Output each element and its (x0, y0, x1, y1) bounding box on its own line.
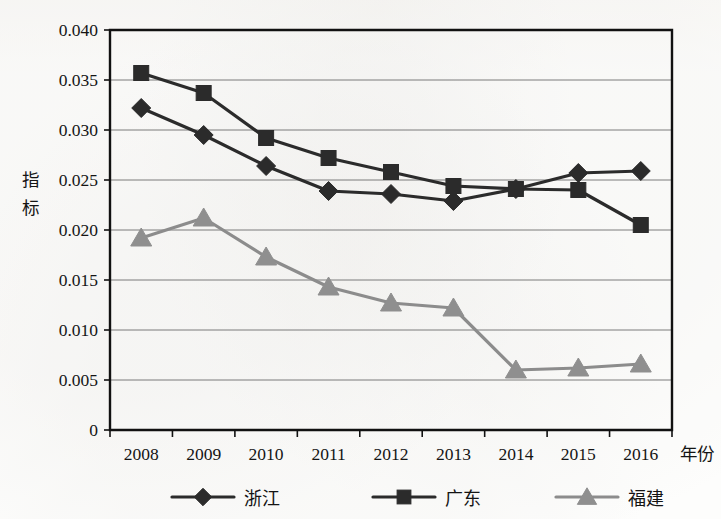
chart-figure: 00.0050.0100.0150.0200.0250.0300.0350.04… (0, 0, 721, 519)
x-tick-label: 2011 (311, 444, 345, 464)
x-axis-title: 年份 (680, 444, 714, 464)
legend-label: 浙江 (244, 489, 280, 509)
legend-item-3: 福建 (556, 488, 664, 509)
axis-titles-group: 指标年份 (22, 170, 714, 464)
data-point-marker (633, 218, 648, 233)
data-point-marker (132, 99, 151, 118)
legend-item-1: 浙江 (172, 488, 280, 509)
y-axis-tick-labels: 00.0050.0100.0150.0200.0250.0300.0350.04… (59, 20, 99, 440)
y-tick-label: 0.010 (59, 320, 99, 340)
chart-legend: 浙江广东福建 (172, 488, 664, 509)
y-tick-label: 0.015 (59, 270, 99, 290)
x-tick-label: 2008 (124, 444, 159, 464)
data-point-marker (193, 208, 214, 226)
data-point-marker (259, 131, 274, 146)
data-point-marker (631, 162, 650, 181)
data-point-marker (194, 488, 211, 505)
data-point-marker (134, 66, 149, 81)
data-point-marker (319, 182, 338, 201)
x-tick-label: 2012 (374, 444, 409, 464)
data-point-marker (508, 182, 523, 197)
data-point-marker (446, 179, 461, 194)
y-tick-label: 0.025 (59, 170, 99, 190)
data-point-marker (256, 247, 277, 265)
series-2 (134, 66, 649, 233)
y-tick-label: 0.020 (59, 220, 99, 240)
line-chart-canvas: 00.0050.0100.0150.0200.0250.0300.0350.04… (0, 0, 721, 519)
series-3 (131, 208, 652, 378)
x-tick-label: 2016 (623, 444, 658, 464)
x-axis-tick-labels: 200820092010201120122013201420152016 (124, 444, 659, 464)
data-point-marker (382, 185, 401, 204)
data-point-marker (397, 490, 411, 504)
y-axis-title: 标 (22, 198, 39, 218)
data-point-marker (196, 86, 211, 101)
x-tick-label: 2014 (498, 444, 533, 464)
data-point-marker (321, 151, 336, 166)
y-tick-label: 0.030 (59, 120, 99, 140)
y-axis-title: 指 (22, 170, 39, 190)
data-point-marker (444, 192, 463, 211)
x-tick-label: 2015 (561, 444, 596, 464)
data-point-marker (384, 165, 399, 180)
legend-item-2: 广东 (373, 489, 481, 509)
x-tick-label: 2010 (249, 444, 284, 464)
y-tick-label: 0.035 (59, 70, 99, 90)
y-tick-label: 0.040 (59, 20, 99, 40)
legend-label: 福建 (628, 489, 664, 509)
gridlines-group (110, 80, 672, 380)
data-point-marker (257, 157, 276, 176)
data-point-marker (571, 183, 586, 198)
data-point-marker (194, 126, 213, 145)
y-tick-label: 0.005 (59, 370, 99, 390)
series-layer (131, 66, 652, 379)
x-tick-label: 2013 (436, 444, 471, 464)
legend-label: 广东 (445, 489, 481, 509)
y-tick-label: 0 (89, 420, 98, 440)
x-tick-label: 2009 (186, 444, 221, 464)
